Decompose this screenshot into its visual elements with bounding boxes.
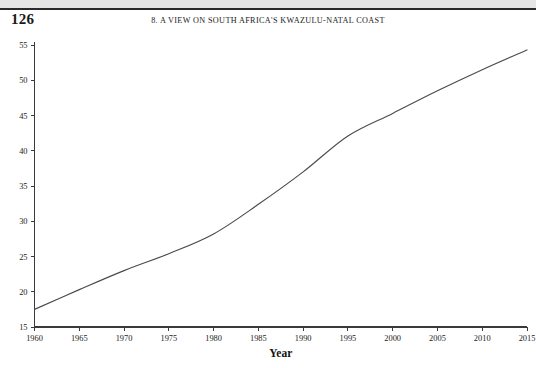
x-tick-label: 1975 bbox=[160, 334, 177, 343]
y-tick-label: 50 bbox=[19, 76, 27, 85]
x-tick-label: 1990 bbox=[295, 334, 312, 343]
y-tick-label: 20 bbox=[19, 288, 27, 297]
figure-line-chart: 152025303540455055 196019651970197519801… bbox=[0, 34, 536, 368]
chart-canvas: 152025303540455055 196019651970197519801… bbox=[0, 34, 536, 368]
y-tick-label: 45 bbox=[19, 112, 27, 121]
x-axis-ticks: 1960196519701975198019851990199520002005… bbox=[26, 327, 535, 343]
y-tick-label: 40 bbox=[19, 147, 27, 156]
y-axis-ticks: 152025303540455055 bbox=[19, 41, 34, 332]
x-tick-label: 2000 bbox=[384, 334, 401, 343]
x-tick-label: 1965 bbox=[71, 334, 88, 343]
y-tick-label: 15 bbox=[19, 323, 27, 332]
y-tick-label: 30 bbox=[19, 217, 27, 226]
axis-lines bbox=[35, 42, 528, 327]
x-tick-label: 1985 bbox=[250, 334, 267, 343]
x-tick-label: 2005 bbox=[429, 334, 446, 343]
x-axis-title: Year bbox=[269, 347, 292, 359]
y-tick-label: 55 bbox=[19, 41, 27, 50]
data-series-line bbox=[35, 50, 528, 309]
y-tick-label: 25 bbox=[19, 253, 27, 262]
x-tick-label: 1970 bbox=[116, 334, 133, 343]
y-tick-label: 35 bbox=[19, 182, 27, 191]
x-tick-label: 2010 bbox=[474, 334, 491, 343]
running-header: 8. A VIEW ON SOUTH AFRICA'S KWAZULU-NATA… bbox=[0, 17, 536, 25]
header-rule bbox=[0, 8, 536, 10]
x-tick-label: 2015 bbox=[519, 334, 536, 343]
x-tick-label: 1995 bbox=[340, 334, 357, 343]
scan-edge-band bbox=[0, 0, 536, 8]
x-tick-label: 1960 bbox=[26, 334, 43, 343]
x-tick-label: 1980 bbox=[205, 334, 222, 343]
